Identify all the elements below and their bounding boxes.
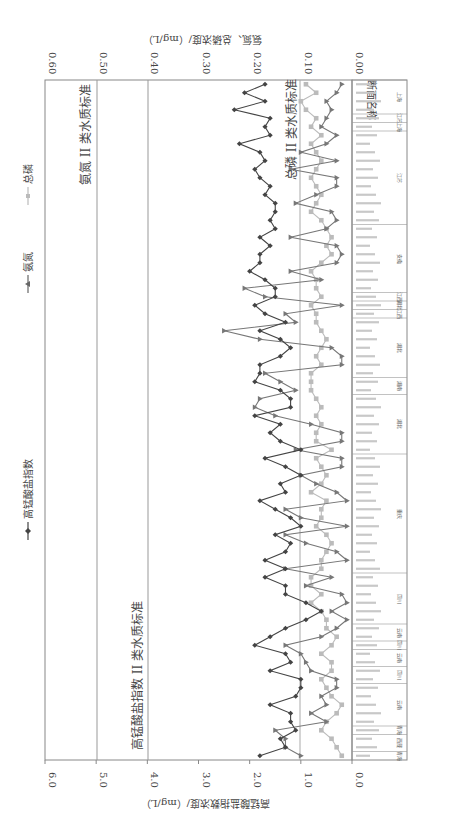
- triangle-marker-icon: [294, 387, 299, 393]
- top-tick-label: 0.40: [149, 52, 160, 74]
- diamond-marker-icon: [268, 218, 273, 223]
- triangle-marker-icon: [289, 234, 294, 240]
- square-marker-icon: [26, 194, 30, 198]
- province-label: 重庆: [396, 509, 403, 519]
- square-marker-icon: [314, 430, 319, 435]
- legend-item-tp: 总磷: [22, 164, 34, 205]
- cod-standard-label: 高锰酸盐指数 II 类水质标准: [130, 601, 145, 750]
- bottom-axis-ticks: 6.05.04.03.02.01.00.0: [45, 760, 365, 788]
- top-tick-label: 0.50: [98, 52, 109, 74]
- province-label: 江西: [396, 292, 403, 302]
- tp-standard-label: 总磷 II 类水质标准: [284, 79, 299, 180]
- diamond-marker-icon: [288, 541, 293, 546]
- diamond-marker-icon: [298, 677, 303, 682]
- diamond-marker-icon: [288, 405, 293, 410]
- triangle-marker-icon: [340, 591, 345, 597]
- province-label: 四川: [397, 670, 403, 680]
- bottom-tick-label: 0.0: [354, 772, 365, 788]
- diamond-marker-icon: [262, 82, 267, 87]
- triangle-marker-icon: [309, 421, 314, 427]
- diamond-marker-icon: [278, 481, 283, 486]
- square-marker-icon: [329, 660, 334, 665]
- province-label: 云南: [396, 700, 403, 710]
- triangle-marker-icon: [335, 90, 340, 96]
- square-marker-icon: [324, 626, 329, 631]
- triangle-marker-icon: [309, 668, 314, 674]
- square-marker-icon: [314, 116, 319, 121]
- square-marker-icon: [324, 498, 329, 503]
- diamond-marker-icon: [257, 753, 262, 758]
- square-marker-icon: [314, 439, 319, 444]
- triangle-marker-icon: [345, 523, 350, 529]
- province-label: 上海: [396, 92, 403, 102]
- square-marker-icon: [309, 124, 314, 129]
- diamond-marker-icon: [303, 617, 308, 622]
- legend-item-nh3: 氨氮: [22, 252, 34, 293]
- square-marker-icon: [319, 728, 324, 733]
- triangle-marker-icon: [345, 617, 350, 623]
- square-marker-icon: [314, 90, 319, 95]
- square-marker-icon: [309, 209, 314, 214]
- square-marker-icon: [324, 532, 329, 537]
- diamond-marker-icon: [273, 226, 278, 231]
- diamond-marker-icon: [293, 694, 298, 699]
- diamond-marker-icon: [257, 498, 262, 503]
- province-label: 安徽: [396, 254, 403, 264]
- square-marker-icon: [319, 405, 324, 410]
- triangle-marker-icon: [319, 124, 324, 130]
- triangle-marker-icon: [283, 506, 288, 512]
- diamond-marker-icon: [283, 592, 288, 597]
- triangle-marker-icon: [330, 574, 335, 580]
- square-marker-icon: [314, 286, 319, 291]
- diamond-marker-icon: [25, 528, 31, 534]
- square-marker-icon: [314, 396, 319, 401]
- square-marker-icon: [339, 702, 344, 707]
- water-quality-chart: 6.05.04.03.02.01.00.0 0.600.500.400.300.…: [0, 0, 459, 829]
- diamond-marker-icon: [283, 464, 288, 469]
- legend-item-cod: 高锰酸盐指数: [22, 459, 34, 540]
- triangle-marker-icon: [340, 302, 345, 308]
- square-marker-icon: [319, 133, 324, 138]
- square-marker-icon: [314, 167, 319, 172]
- triangle-marker-icon: [319, 634, 324, 640]
- triangle-marker-icon: [283, 532, 288, 538]
- series-total-phosphorus: [299, 82, 345, 758]
- triangle-marker-icon: [330, 608, 335, 614]
- square-marker-icon: [319, 422, 324, 427]
- square-marker-icon: [329, 252, 334, 257]
- province-label: 湖北: [396, 343, 403, 353]
- bottom-tick-label: 5.0: [98, 772, 109, 788]
- bottom-tick-label: 6.0: [47, 772, 58, 788]
- square-marker-icon: [309, 175, 314, 180]
- square-marker-icon: [314, 320, 319, 325]
- triangle-marker-icon: [294, 200, 299, 206]
- top-axis-ticks: 0.600.500.400.300.200.100.00: [47, 52, 365, 74]
- triangle-marker-icon: [335, 260, 340, 266]
- triangle-marker-icon: [345, 498, 350, 504]
- triangle-marker-icon: [299, 149, 304, 155]
- square-marker-icon: [319, 507, 324, 512]
- square-marker-icon: [314, 524, 319, 529]
- diamond-marker-icon: [283, 549, 288, 554]
- top-tick-label: 0.20: [252, 52, 263, 74]
- bottom-tick-label: 1.0: [303, 772, 314, 788]
- diamond-marker-icon: [288, 660, 293, 665]
- top-tick-label: 0.30: [201, 52, 212, 74]
- bottom-tick-label: 3.0: [201, 772, 212, 788]
- square-marker-icon: [309, 141, 314, 146]
- province-label: 江西: [396, 309, 403, 319]
- diamond-marker-icon: [288, 711, 293, 716]
- triangle-marker-icon: [263, 370, 268, 376]
- square-marker-icon: [329, 694, 334, 699]
- diamond-marker-icon: [257, 150, 262, 155]
- square-marker-icon: [324, 617, 329, 622]
- square-marker-icon: [329, 235, 334, 240]
- square-marker-icon: [324, 685, 329, 690]
- square-marker-icon: [309, 379, 314, 384]
- province-label: 湖北: [396, 419, 403, 429]
- triangle-marker-icon: [299, 753, 304, 759]
- square-marker-icon: [319, 558, 324, 563]
- square-marker-icon: [329, 736, 334, 741]
- triangle-marker-icon: [258, 336, 263, 342]
- diamond-marker-icon: [288, 719, 293, 724]
